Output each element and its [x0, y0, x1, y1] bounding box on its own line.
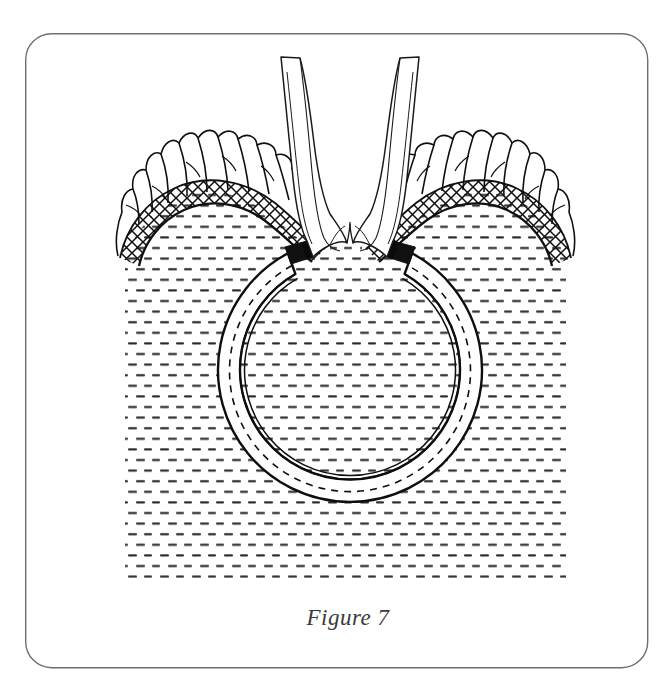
figure-caption: Figure 7 — [306, 605, 391, 630]
figure-page: Figure 7 — [0, 0, 664, 692]
figure-illustration: Figure 7 — [0, 0, 664, 692]
